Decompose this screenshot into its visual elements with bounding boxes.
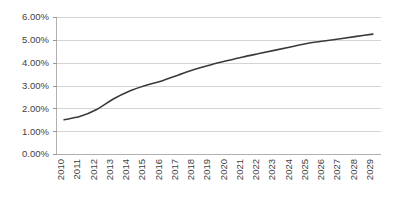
x-tick-label: 2019 (201, 159, 212, 180)
y-tick-label: 4.00% (22, 57, 49, 68)
x-tick-label: 2024 (283, 159, 294, 180)
x-tick-label: 2017 (169, 159, 180, 180)
x-axis-labels: 2010201120122013201420152016201720182019… (55, 159, 375, 180)
x-tick-label: 2021 (234, 159, 245, 180)
x-tick-label: 2010 (55, 159, 66, 180)
tickmarks-group (53, 18, 57, 155)
x-tick-label: 2025 (299, 159, 310, 180)
y-tick-label: 1.00% (22, 126, 49, 137)
x-tick-label: 2020 (218, 159, 229, 180)
x-tick-label: 2015 (136, 159, 147, 180)
x-tick-label: 2018 (185, 159, 196, 180)
line-chart: 0.00%1.00%2.00%3.00%4.00%5.00%6.00% 2010… (0, 0, 395, 205)
gridlines-group (56, 18, 381, 132)
series-group (64, 34, 373, 120)
x-tick-label: 2012 (88, 159, 99, 180)
data-series-line (64, 34, 373, 120)
y-tick-label: 6.00% (22, 11, 49, 22)
y-tick-label: 3.00% (22, 80, 49, 91)
x-tick-label: 2029 (364, 159, 375, 180)
y-tick-label: 2.00% (22, 103, 49, 114)
y-tick-label: 5.00% (22, 34, 49, 45)
x-tick-label: 2023 (266, 159, 277, 180)
x-tick-label: 2013 (104, 159, 115, 180)
chart-canvas: 0.00%1.00%2.00%3.00%4.00%5.00%6.00% 2010… (0, 0, 395, 205)
y-tick-label: 0.00% (22, 148, 49, 159)
y-axis-labels: 0.00%1.00%2.00%3.00%4.00%5.00%6.00% (22, 11, 49, 159)
x-tick-label: 2027 (331, 159, 342, 180)
x-tick-label: 2011 (71, 159, 82, 179)
x-tick-label: 2014 (120, 159, 131, 180)
x-tick-label: 2016 (153, 159, 164, 180)
x-tick-label: 2028 (348, 159, 359, 180)
x-tick-label: 2026 (315, 159, 326, 180)
x-tick-label: 2022 (250, 159, 261, 180)
